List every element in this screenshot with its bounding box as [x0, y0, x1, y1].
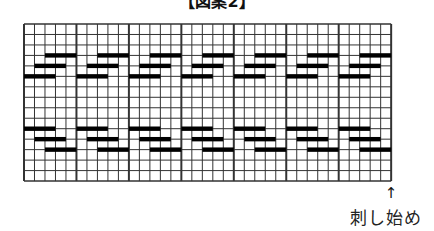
stitch-bar [202, 147, 233, 151]
stitch-bar [24, 127, 55, 131]
stitch-bar [349, 137, 380, 141]
stitch-bar [234, 127, 265, 131]
stitch-bar [76, 127, 107, 131]
stitch-bar [34, 137, 65, 141]
stitch-bar [139, 137, 170, 141]
start-arrow-icon: ↑ [382, 186, 400, 201]
stitch-bar [87, 137, 118, 141]
stitch-bar [286, 74, 317, 78]
stitch-bar [129, 127, 160, 131]
stitch-bar [87, 64, 118, 68]
stitch-bar [244, 64, 275, 68]
stitch-bar [181, 74, 212, 78]
stitch-bar [34, 64, 65, 68]
stitch-bar [150, 147, 181, 151]
stitch-bar [192, 64, 223, 68]
stitch-bar [307, 53, 338, 57]
stitch-bar [181, 127, 212, 131]
stitch-bar [349, 64, 380, 68]
stitch-bar [24, 74, 55, 78]
stitch-bar [97, 53, 128, 57]
stitch-bar [234, 74, 265, 78]
stitch-bar [202, 53, 233, 57]
stitch-bar [360, 53, 391, 57]
stitch-bar [45, 53, 76, 57]
stitch-bar [339, 74, 370, 78]
stitch-bar [150, 53, 181, 57]
stitch-pattern-grid [0, 0, 434, 231]
stitch-bar [139, 64, 170, 68]
stitch-bar [76, 74, 107, 78]
stitch-bar [286, 127, 317, 131]
stitch-bar [297, 137, 328, 141]
stitch-bar [244, 137, 275, 141]
stitch-bar [192, 137, 223, 141]
stitch-bar [255, 53, 286, 57]
stitch-bar [129, 74, 160, 78]
stitch-bar [307, 147, 338, 151]
stitch-bar [255, 147, 286, 151]
stitch-bar [45, 147, 76, 151]
start-label: 刺し始め [350, 204, 422, 229]
stitch-bar [97, 147, 128, 151]
stitch-bar [297, 64, 328, 68]
stitch-bar [339, 127, 370, 131]
stitch-bar [360, 147, 391, 151]
